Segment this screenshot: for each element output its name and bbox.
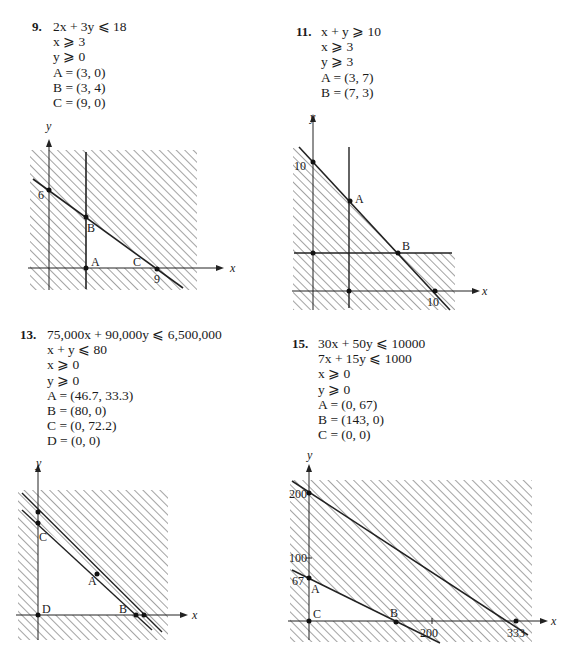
constraint: y ⩾ 0 xyxy=(47,373,222,388)
vertex: B = (3, 4) xyxy=(53,80,127,95)
problem-number: 13. xyxy=(20,327,36,343)
svg-text:67: 67 xyxy=(292,574,304,588)
svg-text:x: x xyxy=(481,284,488,298)
svg-text:200: 200 xyxy=(289,487,307,501)
graph-problem-9: y x 6 9 B A C xyxy=(28,119,236,290)
constraint: x ⩾ 3 xyxy=(321,39,381,54)
svg-text:y: y xyxy=(35,456,42,470)
problem-number: 15. xyxy=(292,336,308,352)
constraint: x ⩾ 0 xyxy=(47,357,222,372)
svg-text:y: y xyxy=(309,110,316,124)
constraint: x ⩾ 3 xyxy=(53,34,127,49)
svg-text:A: A xyxy=(88,574,97,588)
constraint: 7x + 15y ⩽ 1000 xyxy=(318,351,425,366)
constraint: 75,000x + 90,000y ⩽ 6,500,000 xyxy=(47,327,222,342)
constraint: y ⩾ 3 xyxy=(321,54,381,69)
constraint: x + y ⩽ 80 xyxy=(47,342,222,357)
problem-number: 11. xyxy=(296,24,312,40)
constraint: 2x + 3y ⩽ 18 xyxy=(53,19,127,34)
vertex: B = (7, 3) xyxy=(321,85,381,100)
svg-text:200: 200 xyxy=(420,626,438,640)
x-axis-arrow-icon xyxy=(216,265,224,271)
constraint: x + y ⩾ 10 xyxy=(321,24,381,39)
problem-number: 9. xyxy=(32,19,42,35)
vertex: B = (80, 0) xyxy=(47,403,222,418)
svg-text:B: B xyxy=(87,221,95,235)
svg-text:9: 9 xyxy=(154,272,160,286)
svg-text:B: B xyxy=(390,606,398,620)
constraint-list: 2x + 3y ⩽ 18 x ⩾ 3 y ⩾ 0 A = (3, 0) B = … xyxy=(53,19,127,110)
constraint: y ⩾ 0 xyxy=(318,382,425,397)
graph-problem-11: y x 10 10 A B xyxy=(292,110,488,310)
svg-text:A: A xyxy=(311,582,320,596)
svg-text:A: A xyxy=(91,255,100,269)
vertex: D = (0, 0) xyxy=(47,433,222,448)
vertex: C = (9, 0) xyxy=(53,95,127,110)
y-axis-label: y xyxy=(45,119,52,133)
svg-text:C: C xyxy=(133,255,141,269)
constraint-list: 30x + 50y ⩽ 10000 7x + 15y ⩽ 1000 x ⩾ 0 … xyxy=(318,336,425,442)
constraint-list: x + y ⩾ 10 x ⩾ 3 y ⩾ 3 A = (3, 7) B = (7… xyxy=(321,24,381,100)
svg-text:B: B xyxy=(119,602,127,616)
svg-text:6: 6 xyxy=(38,188,44,202)
y-axis-arrow-icon xyxy=(46,139,52,147)
graph-problem-13: y x C A B D xyxy=(16,456,198,640)
svg-text:100: 100 xyxy=(289,551,307,565)
svg-text:333: 333 xyxy=(507,626,525,640)
vertex: A = (3, 7) xyxy=(321,70,381,85)
vertex: B = (143, 0) xyxy=(318,412,425,427)
hatched-region xyxy=(30,150,197,290)
constraint-list: 75,000x + 90,000y ⩽ 6,500,000 x + y ⩽ 80… xyxy=(47,327,222,449)
constraint: 30x + 50y ⩽ 10000 xyxy=(318,336,425,351)
x-axis-label: x xyxy=(229,261,236,275)
graph-problem-15: y x 200 100 67 A C B 200 333 xyxy=(288,448,557,643)
svg-text:C: C xyxy=(313,607,321,621)
svg-text:x: x xyxy=(191,608,198,622)
vertex: A = (0, 67) xyxy=(318,397,425,412)
constraint: y ⩾ 0 xyxy=(53,49,127,64)
svg-text:x: x xyxy=(550,614,557,628)
vertex: A = (3, 0) xyxy=(53,65,127,80)
svg-text:A: A xyxy=(355,192,364,206)
svg-text:10: 10 xyxy=(294,159,306,173)
vertex: C = (0, 0) xyxy=(318,427,425,442)
vertex: A = (46.7, 33.3) xyxy=(47,388,222,403)
svg-text:B: B xyxy=(402,239,410,253)
constraint: x ⩾ 0 xyxy=(318,366,425,381)
svg-text:D: D xyxy=(42,602,51,616)
vertex: C = (0, 72.2) xyxy=(47,418,222,433)
svg-text:C: C xyxy=(39,530,47,544)
svg-text:y: y xyxy=(306,448,313,462)
svg-text:10: 10 xyxy=(427,295,439,309)
